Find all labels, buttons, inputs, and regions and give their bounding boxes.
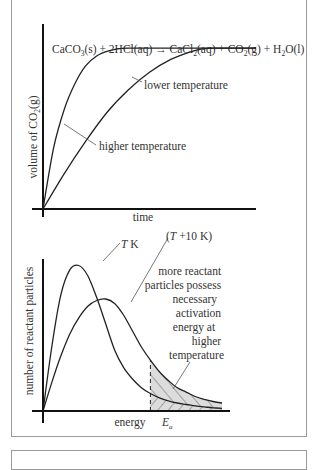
label-higher-temperature: higher temperature	[99, 140, 186, 153]
label-lower-temperature: lower temperature	[144, 79, 228, 92]
distribution-y-axis-label: number of reactant particles	[23, 266, 36, 395]
activation-energy-label: Ea	[161, 416, 173, 431]
rate-y-axis-label: volume of CO2(g)	[27, 95, 42, 178]
leader-shaded-region	[173, 362, 190, 389]
rate-x-axis-label: time	[133, 211, 153, 223]
distribution-x-axis-label: energy	[114, 416, 145, 429]
label-t-plus-10k: (T +10 K)	[166, 230, 212, 243]
leader-t-k	[103, 243, 120, 261]
label-t-k: T K	[121, 238, 139, 250]
curve-lower-temperature	[43, 48, 256, 209]
annotation-higher-temperature-note: more reactant particles possess necessar…	[145, 265, 224, 362]
distribution-chart: number of reactant particles energy Ea T…	[23, 230, 230, 431]
rate-chart: CaCO3(s) + 2HCl(aq) → CaCl2(aq) + CO2(g)…	[27, 24, 304, 223]
